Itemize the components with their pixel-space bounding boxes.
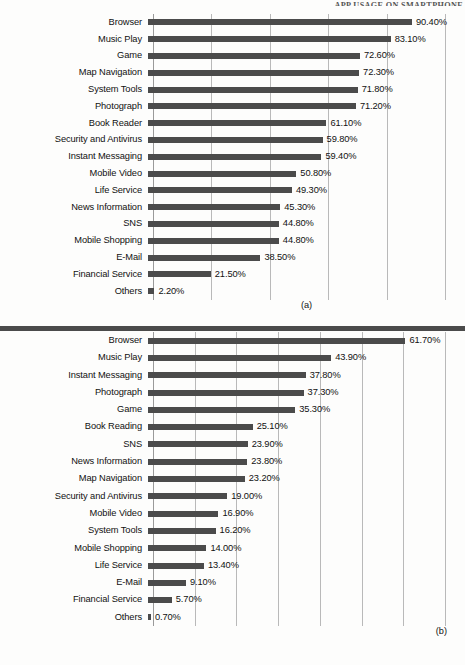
bar-track: 61.70% (148, 332, 465, 349)
bar-track: 2.20% (148, 283, 465, 300)
bar-value-label: 43.90% (335, 353, 366, 362)
bar-value-label: 16.90% (222, 509, 253, 518)
category-label: Game (0, 51, 148, 60)
bar-track: 61.10% (148, 115, 465, 132)
category-label: Security and Antivirus (0, 135, 148, 144)
bar (148, 511, 218, 517)
chart-row: News Information23.80% (0, 453, 465, 470)
bar (148, 221, 279, 227)
chart-row: Browser90.40% (0, 14, 465, 31)
bar-value-label: 14.00% (210, 544, 241, 553)
bar-value-label: 25.10% (257, 422, 288, 431)
category-label: System Tools (0, 526, 148, 535)
category-label: Book Reader (0, 119, 148, 128)
chart-b-rows: Browser61.70%Music Play43.90%Instant Mes… (0, 332, 465, 626)
chart-row: Financial Service5.70% (0, 591, 465, 608)
bar-value-label: 2.20% (158, 287, 184, 296)
bar (148, 459, 247, 465)
bar-track: 9.10% (148, 574, 465, 591)
bar (148, 171, 296, 177)
bar (148, 36, 391, 42)
bar-value-label: 23.20% (249, 474, 280, 483)
bar-value-label: 90.40% (416, 18, 447, 27)
section-divider-rule (0, 326, 465, 331)
bar (148, 528, 216, 534)
bar-track: 59.80% (148, 132, 465, 149)
bar (148, 441, 248, 447)
bar (148, 271, 211, 277)
chart-row: Mobile Video50.80% (0, 165, 465, 182)
bar-track: 71.20% (148, 98, 465, 115)
chart-b-caption: (b) (0, 626, 465, 636)
category-label: E-Mail (0, 253, 148, 262)
category-label: Mobile Video (0, 169, 148, 178)
bar-track: 44.80% (148, 216, 465, 233)
chart-row: Book Reader61.10% (0, 115, 465, 132)
chart-row: Map Navigation72.30% (0, 64, 465, 81)
bar (148, 255, 260, 261)
category-label: Mobile Shopping (0, 236, 148, 245)
chart-row: Life Service49.30% (0, 182, 465, 199)
bar (148, 372, 306, 378)
category-label: Map Navigation (0, 474, 148, 483)
category-label: SNS (0, 219, 148, 228)
bar-value-label: 61.10% (330, 119, 361, 128)
bar-track: 5.70% (148, 591, 465, 608)
bar-value-label: 50.80% (300, 169, 331, 178)
bar (148, 338, 405, 344)
bar-value-label: 23.80% (251, 457, 282, 466)
bar-value-label: 72.60% (364, 51, 395, 60)
category-label: Life Service (0, 561, 148, 570)
chart-row: Music Play83.10% (0, 31, 465, 48)
bar-value-label: 5.70% (176, 595, 202, 604)
category-label: Mobile Shopping (0, 544, 148, 553)
category-label: E-Mail (0, 578, 148, 587)
category-label: Map Navigation (0, 68, 148, 77)
chart-row: System Tools16.20% (0, 522, 465, 539)
running-header: APP USAGE ON SMARTPHONE (0, 0, 465, 6)
bar (148, 70, 359, 76)
category-label: Life Service (0, 186, 148, 195)
chart-row: News Information45.30% (0, 199, 465, 216)
bar (148, 154, 321, 160)
chart-row: Security and Antivirus19.00% (0, 488, 465, 505)
category-label: Music Play (0, 35, 148, 44)
bar-track: 14.00% (148, 540, 465, 557)
bar-value-label: 44.80% (283, 219, 314, 228)
bar (148, 424, 253, 430)
chart-row: Photograph71.20% (0, 98, 465, 115)
bar (148, 204, 280, 210)
chart-row: Mobile Shopping14.00% (0, 540, 465, 557)
bar-value-label: 38.50% (264, 253, 295, 262)
category-label: Browser (0, 18, 148, 27)
bar (148, 476, 245, 482)
category-label: Financial Service (0, 595, 148, 604)
chart-a-block: Browser90.40%Music Play83.10%Game72.60%M… (0, 14, 465, 324)
running-header-text: APP USAGE ON SMARTPHONE (334, 1, 463, 6)
chart-row: System Tools71.80% (0, 81, 465, 98)
bar-value-label: 37.30% (308, 388, 339, 397)
chart-row: Security and Antivirus59.80% (0, 132, 465, 149)
bar (148, 187, 292, 193)
category-label: Book Reading (0, 422, 148, 431)
chart-b-plot: Browser61.70%Music Play43.90%Instant Mes… (0, 332, 465, 626)
bar (148, 103, 356, 109)
bar (148, 545, 206, 551)
bar-value-label: 49.30% (296, 186, 327, 195)
bar (148, 288, 154, 294)
chart-b-block: Browser61.70%Music Play43.90%Instant Mes… (0, 332, 465, 662)
chart-row: SNS23.90% (0, 436, 465, 453)
bar-value-label: 16.20% (220, 526, 251, 535)
bar-track: 23.20% (148, 470, 465, 487)
chart-row: Instant Messaging59.40% (0, 148, 465, 165)
bar-value-label: 59.40% (325, 152, 356, 161)
bar (148, 355, 331, 361)
bar (148, 390, 304, 396)
chart-row: Financial Service21.50% (0, 266, 465, 283)
bar-track: 44.80% (148, 232, 465, 249)
bar (148, 597, 172, 603)
chart-a-plot: Browser90.40%Music Play83.10%Game72.60%M… (0, 14, 465, 300)
chart-row: Mobile Video16.90% (0, 505, 465, 522)
chart-a-rows: Browser90.40%Music Play83.10%Game72.60%M… (0, 14, 465, 300)
chart-row: Music Play43.90% (0, 349, 465, 366)
